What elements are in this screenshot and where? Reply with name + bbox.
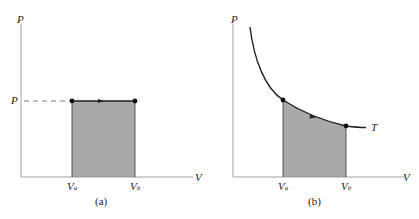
work-area-b — [283, 100, 346, 177]
y-axis-label-b: P — [231, 14, 238, 25]
x-axis-label-a: V — [195, 172, 202, 183]
pressure-label-a: P — [11, 95, 18, 106]
pv-diagrams — [0, 0, 419, 219]
va-label-a: Va — [67, 181, 77, 192]
state-point-b-end — [344, 124, 349, 129]
work-area-a — [72, 101, 135, 177]
caption-a: (a) — [95, 196, 107, 207]
isotherm-curve — [250, 27, 366, 128]
y-axis-label-a: P — [17, 14, 24, 25]
state-point-a-start — [70, 99, 75, 104]
caption-b: (b) — [308, 196, 321, 207]
state-point-a-end — [133, 99, 138, 104]
state-point-b-start — [281, 98, 286, 103]
vb-label-b: Vb — [341, 181, 351, 192]
x-axis-label-b: V — [403, 172, 410, 183]
panel-a — [21, 24, 193, 177]
panel-b — [233, 24, 405, 177]
vb-label-a: Vb — [130, 181, 140, 192]
isotherm-label: T — [371, 122, 377, 133]
va-label-b: Va — [278, 181, 288, 192]
